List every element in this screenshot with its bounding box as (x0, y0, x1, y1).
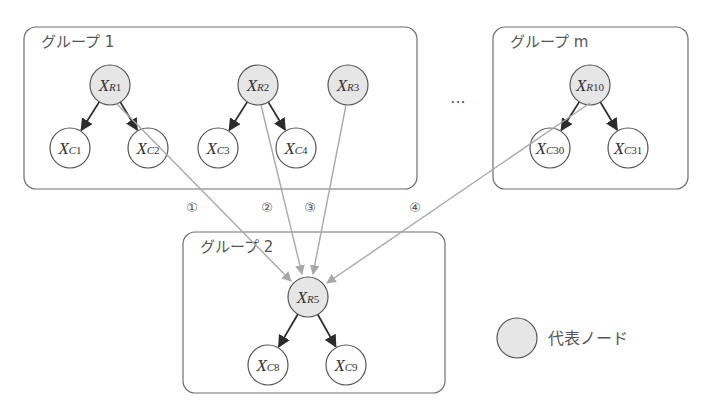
node-XR3: XR3 (328, 65, 368, 105)
group-label: グループ 1 (41, 33, 114, 51)
legend: 代表ノード (497, 318, 628, 358)
node-XC31: XC31 (608, 128, 648, 168)
node-XC4: XC4 (276, 128, 316, 168)
node-XC3: XC3 (198, 128, 238, 168)
link-number-label: ③ (304, 200, 316, 215)
node-XR5: XR5 (288, 277, 328, 317)
node-XC9: XC9 (326, 345, 366, 385)
legend-representative-node-icon (497, 318, 537, 358)
group-label: グループ 2 (200, 238, 273, 256)
node-XC30: XC30 (530, 128, 570, 168)
link-number-label: ② (261, 200, 273, 215)
node-XC1: XC1 (50, 128, 90, 168)
node-XC2: XC2 (128, 128, 168, 168)
link-number-label: ④ (409, 200, 421, 215)
group-label: グループ m (510, 33, 588, 51)
node-XR1: XR1 (90, 65, 130, 105)
group-m-box: グループ m (493, 27, 688, 189)
group-representative-node-diagram: グループ 1グループ mグループ 2 XR1XC1XC2XR2XC3XC4XR3… (0, 0, 704, 408)
legend-label: 代表ノード (548, 329, 628, 348)
link-number-label: ① (186, 200, 198, 215)
group-border (493, 27, 688, 189)
node-XR10: XR10 (570, 65, 610, 105)
ellipsis-more-groups: ··· (450, 93, 465, 112)
node-XC8: XC8 (248, 345, 288, 385)
node-XR2: XR2 (238, 65, 278, 105)
